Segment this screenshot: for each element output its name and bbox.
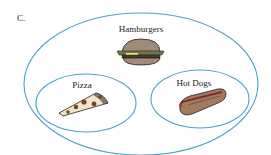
hamburger-icon	[117, 39, 164, 65]
pizza-slice-icon	[59, 93, 108, 116]
outer-set-label: Hamburgers	[119, 24, 164, 34]
panel-label: C.	[17, 13, 25, 23]
hot-dog-icon	[179, 89, 226, 115]
outer-set-hamburgers	[24, 13, 258, 155]
inner-set-label-hot-dogs: Hot Dogs	[177, 78, 212, 88]
inner-set-label-pizza: Pizza	[72, 80, 92, 90]
venn-diagram: C. Hamburgers Pizza Hot Dogs	[0, 0, 271, 155]
